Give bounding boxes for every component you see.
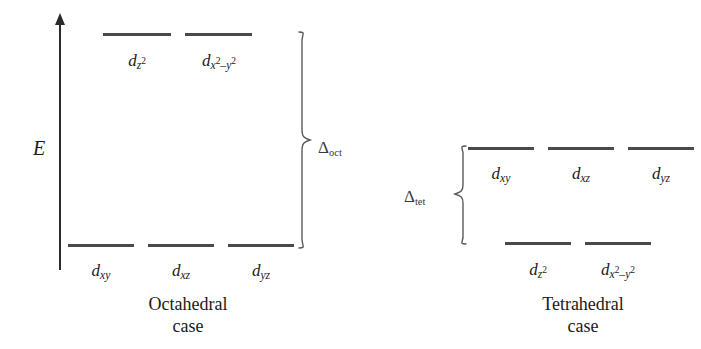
energy-axis-label: E [33, 138, 45, 158]
delta-symbol: Δ [318, 138, 329, 157]
caption-line-2: case [498, 316, 668, 338]
orbital-letter: d [92, 261, 101, 280]
delta-subscript: oct [329, 147, 342, 158]
orbital-letter: d [492, 164, 501, 183]
label-delta-oct: Δoct [318, 139, 342, 158]
level-bar-tet-dx2-y2 [585, 242, 651, 245]
level-bar-oct-dz2 [103, 33, 171, 36]
orbital-sup2: 2 [231, 56, 236, 66]
orbital-label-oct-dz2: dz2 [103, 52, 171, 72]
caption-octahedral: Octahedral case [108, 294, 268, 338]
level-bar-oct-dxy [68, 244, 134, 247]
level-bar-tet-dxy [468, 147, 534, 150]
orbital-label-oct-dxy: dxy [68, 262, 134, 282]
caption-line-2: case [108, 316, 268, 338]
orbital-letter: d [529, 260, 538, 279]
orbital-sub: xy [500, 172, 510, 185]
orbital-sup2: 2 [630, 265, 635, 275]
orbital-label-oct-dxz: dxz [148, 262, 214, 282]
crystal-field-splitting-diagram: E dz2 dx2–y2 dxy dxz dyz Δoct Octahedral… [0, 0, 701, 349]
orbital-label-tet-dx2-y2: dx2–y2 [580, 261, 656, 281]
orbital-sup: 2 [542, 265, 547, 275]
orbital-sub: yz [260, 269, 270, 282]
orbital-sub2: –y [220, 59, 231, 72]
orbital-label-tet-dz2: dz2 [505, 261, 571, 281]
caption-tetrahedral: Tetrahedral case [498, 294, 668, 338]
orbital-sub: yz [660, 172, 670, 185]
level-bar-tet-dyz [628, 147, 694, 150]
brace-delta-tet [449, 144, 469, 248]
orbital-letter: d [128, 51, 137, 70]
orbital-label-oct-dx2-y2: dx2–y2 [181, 52, 257, 72]
level-bar-oct-dx2-y2 [185, 33, 252, 36]
level-bar-oct-dyz [228, 244, 294, 247]
delta-symbol: Δ [404, 187, 415, 206]
level-bar-oct-dxz [148, 244, 214, 247]
caption-line-1: Octahedral [149, 294, 228, 314]
caption-line-1: Tetrahedral [542, 294, 624, 314]
orbital-label-oct-dyz: dyz [228, 262, 294, 282]
orbital-label-tet-dyz: dyz [628, 165, 694, 185]
orbital-sub2: –y [619, 268, 630, 281]
brace-delta-oct [296, 30, 316, 250]
orbital-sup: 2 [141, 56, 146, 66]
orbital-sub: xz [180, 269, 190, 282]
orbital-label-tet-dxy: dxy [468, 165, 534, 185]
orbital-sub: xz [580, 172, 590, 185]
level-bar-tet-dxz [548, 147, 614, 150]
label-delta-tet: Δtet [404, 188, 425, 207]
energy-axis-line [59, 24, 61, 270]
orbital-sub: xy [100, 269, 110, 282]
orbital-label-tet-dxz: dxz [548, 165, 614, 185]
level-bar-tet-dz2 [505, 242, 571, 245]
delta-subscript: tet [415, 196, 426, 207]
